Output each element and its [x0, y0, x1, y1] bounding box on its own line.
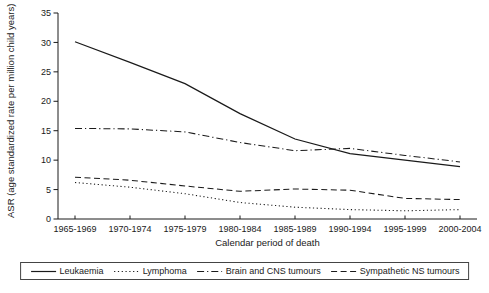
legend-item-sympathetic-ns-tumours: Sympathetic NS tumours — [330, 266, 460, 276]
y-tick-label: 25 — [41, 67, 51, 77]
legend-label: Sympathetic NS tumours — [360, 266, 460, 276]
y-tick-label: 20 — [41, 96, 51, 106]
solid-line-sample-icon — [30, 267, 57, 276]
legend-item-brain-and-cns-tumours: Brain and CNS tumours — [196, 266, 321, 276]
x-tick-label: 1965-1969 — [53, 224, 96, 234]
legend-label: Brain and CNS tumours — [226, 266, 321, 276]
y-tick-label: 10 — [41, 155, 51, 165]
dash-dot-line-sample-icon — [196, 267, 223, 276]
y-tick-label: 5 — [46, 185, 51, 195]
chart-figure: ASR (age standardized rate per million c… — [0, 0, 489, 293]
series-line-sympathetic-ns-tumours — [75, 177, 460, 199]
x-axis-title: Calendar period of death — [58, 237, 477, 248]
y-tick-label: 0 — [46, 214, 51, 224]
x-tick-label: 1970-1974 — [108, 224, 151, 234]
y-tick-label: 15 — [41, 126, 51, 136]
series-line-brain-and-cns-tumours — [75, 128, 460, 162]
y-tick-label: 35 — [41, 8, 51, 18]
series-line-lymphoma — [75, 183, 460, 211]
legend-item-leukaemia: Leukaemia — [30, 266, 104, 276]
x-tick-label: 1995-1999 — [383, 224, 426, 234]
x-tick-label: 1985-1989 — [273, 224, 316, 234]
x-tick-label: 1990-1994 — [328, 224, 371, 234]
plot-area: 051015202530351965-19691970-19741975-197… — [0, 0, 489, 245]
dashed-line-sample-icon — [330, 267, 357, 276]
x-tick-label: 2000-2004 — [438, 224, 481, 234]
x-tick-label: 1980-1984 — [218, 224, 261, 234]
x-tick-label: 1975-1979 — [163, 224, 206, 234]
legend-label: Lymphoma — [143, 266, 187, 276]
legend-label: Leukaemia — [60, 266, 104, 276]
dotted-line-sample-icon — [113, 267, 140, 276]
series-line-leukaemia — [75, 42, 460, 167]
y-tick-label: 30 — [41, 38, 51, 48]
legend: LeukaemiaLymphomaBrain and CNS tumoursSy… — [20, 262, 470, 280]
legend-item-lymphoma: Lymphoma — [113, 266, 187, 276]
